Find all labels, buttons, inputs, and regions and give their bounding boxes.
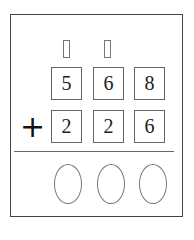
top-digit-ones: 8 (134, 67, 165, 100)
plus-sign: + (20, 112, 42, 142)
top-digit-hundreds: 5 (51, 67, 82, 100)
answer-oval-hundreds[interactable] (54, 164, 82, 204)
answer-oval-ones[interactable] (139, 164, 167, 204)
bottom-digit-hundreds: 2 (51, 110, 82, 143)
bottom-digit-tens: 2 (93, 110, 124, 143)
bottom-digit-ones: 6 (134, 110, 165, 143)
sum-line (14, 151, 174, 152)
top-digit-tens: 6 (93, 67, 124, 100)
carry-box-tens[interactable] (104, 40, 111, 58)
answer-oval-tens[interactable] (97, 164, 125, 204)
carry-box-hundreds[interactable] (63, 40, 70, 58)
